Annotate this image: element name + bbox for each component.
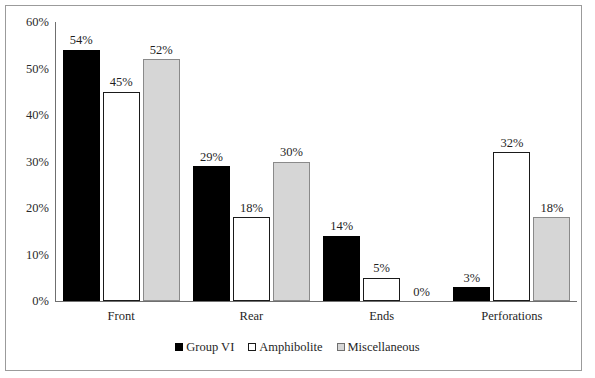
bar-front-amphibolite[interactable]: [103, 92, 140, 301]
chart-screenshot: 60%50%40%30%20%10%0% 54%45%52%29%18%30%1…: [0, 0, 595, 378]
legend-label: Amphibolite: [259, 341, 322, 354]
bar-value-label: 0%: [397, 286, 446, 299]
y-axis: 60%50%40%30%20%10%0%: [0, 0, 49, 378]
bar-ends-group-vi[interactable]: [323, 236, 360, 301]
y-axis-tick-label: 60%: [3, 16, 49, 29]
bar-ends-amphibolite[interactable]: [363, 278, 400, 301]
legend-label: Miscellaneous: [348, 341, 420, 354]
bar-value-label: 18%: [527, 202, 576, 215]
x-axis-category-label: Ends: [317, 310, 447, 323]
bar-perforations-amphibolite[interactable]: [493, 152, 530, 301]
bar-perforations-group-vi[interactable]: [453, 287, 490, 301]
bar-value-label: 3%: [447, 272, 496, 285]
bar-rear-miscellaneous[interactable]: [273, 162, 310, 302]
bar-front-group-vi[interactable]: [63, 50, 100, 301]
y-axis-tick-label: 0%: [3, 295, 49, 308]
x-axis-line: [55, 301, 577, 302]
bar-value-label: 14%: [317, 220, 366, 233]
chart-legend: Group VIAmphiboliteMiscellaneous: [0, 341, 595, 354]
bar-group: 54%45%52%: [63, 22, 180, 301]
white-square-icon: [248, 343, 256, 351]
bar-value-label: 32%: [487, 137, 536, 150]
y-axis-tick-label: 40%: [3, 109, 49, 122]
gray-square-icon: [337, 343, 345, 351]
legend-entry[interactable]: Group VI: [175, 341, 234, 354]
legend-entry[interactable]: Amphibolite: [248, 341, 322, 354]
y-axis-tick-label: 50%: [3, 63, 49, 76]
legend-label: Group VI: [186, 341, 234, 354]
x-axis-category-label: Rear: [186, 310, 316, 323]
black-square-icon: [175, 343, 183, 351]
bar-group: 14%5%0%: [323, 22, 440, 301]
legend-entry[interactable]: Miscellaneous: [337, 341, 420, 354]
bar-group: 29%18%30%: [193, 22, 310, 301]
x-axis-category-label: Front: [56, 310, 186, 323]
y-axis-tick-label: 30%: [3, 156, 49, 169]
bar-front-miscellaneous[interactable]: [143, 59, 180, 301]
plot-area: 54%45%52%29%18%30%14%5%0%3%32%18%: [56, 22, 577, 301]
bar-rear-amphibolite[interactable]: [233, 217, 270, 301]
x-axis-category-label: Perforations: [447, 310, 577, 323]
bar-rear-group-vi[interactable]: [193, 166, 230, 301]
y-axis-tick-label: 20%: [3, 202, 49, 215]
bar-perforations-miscellaneous[interactable]: [533, 217, 570, 301]
bar-value-label: 29%: [187, 151, 236, 164]
bar-value-label: 45%: [97, 76, 146, 89]
bar-value-label: 54%: [57, 34, 106, 47]
bar-group: 3%32%18%: [453, 22, 570, 301]
bar-value-label: 5%: [357, 262, 406, 275]
bar-value-label: 18%: [227, 202, 276, 215]
y-axis-tick-label: 10%: [3, 249, 49, 262]
bar-value-label: 30%: [267, 146, 316, 159]
bar-value-label: 52%: [137, 44, 186, 57]
